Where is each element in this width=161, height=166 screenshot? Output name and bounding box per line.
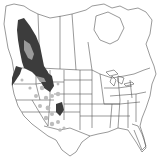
- range-map: [0, 0, 161, 166]
- primary-range-colorado: [56, 102, 64, 116]
